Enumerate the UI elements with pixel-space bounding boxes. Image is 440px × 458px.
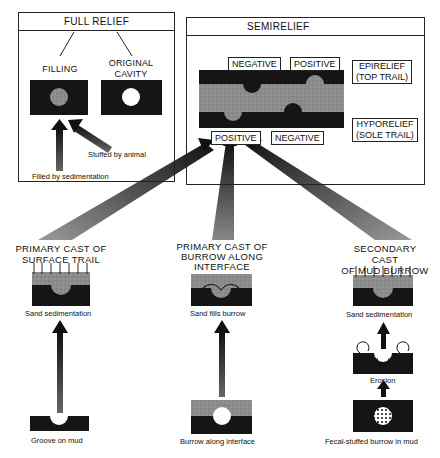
filling-label: FILLING [34, 64, 86, 75]
stuffed-by-animal-caption: Stuffed by animal [88, 150, 146, 159]
top-negative-label: NEGATIVE [228, 57, 281, 71]
column-3-heading: SECONDARY CAST OF MUD BURROW [340, 243, 430, 276]
bottom-negative-label: NEGATIVE [271, 131, 324, 145]
column-1-heading: PRIMARY CAST OF SURFACE TRAIL [8, 243, 114, 265]
original-cavity-label: ORIGINAL CAVITY [100, 58, 162, 80]
column-2-graphics [191, 274, 252, 434]
top-positive-label: POSITIVE [290, 57, 340, 71]
column-1-process-caption: Sand sedimentation [25, 309, 91, 318]
column-3-process-caption: Sand sedimentation [346, 310, 412, 319]
column-3-origin-caption: Fecal-stuffed burrow in mud [325, 437, 418, 446]
full-relief-title: FULL RELIEF [19, 13, 174, 31]
epirelief-label: EPIRELIEF (TOP TRAIL) [352, 60, 412, 84]
column-2-origin-caption: Burrow along interface [180, 437, 255, 446]
column-3-intermediate-caption: Erosion [370, 376, 395, 385]
semirelief-panel: SEMIRELIEF [186, 17, 425, 185]
semirelief-title: SEMIRELIEF [187, 18, 424, 36]
column-2-process-caption: Sand fills burrow [190, 309, 245, 318]
hyporelief-label: HYPORELIEF (SOLE TRAIL) [352, 118, 418, 142]
filled-by-sedimentation-caption: Filled by sedimentation [32, 172, 109, 181]
column-3-graphics [353, 266, 413, 432]
column-2-heading: PRIMARY CAST OF BURROW ALONG INTERFACE [168, 242, 276, 272]
column-1-graphics [30, 263, 90, 431]
column-1-origin-caption: Groove on mud [31, 436, 83, 445]
bottom-positive-label: POSITIVE [211, 131, 261, 145]
